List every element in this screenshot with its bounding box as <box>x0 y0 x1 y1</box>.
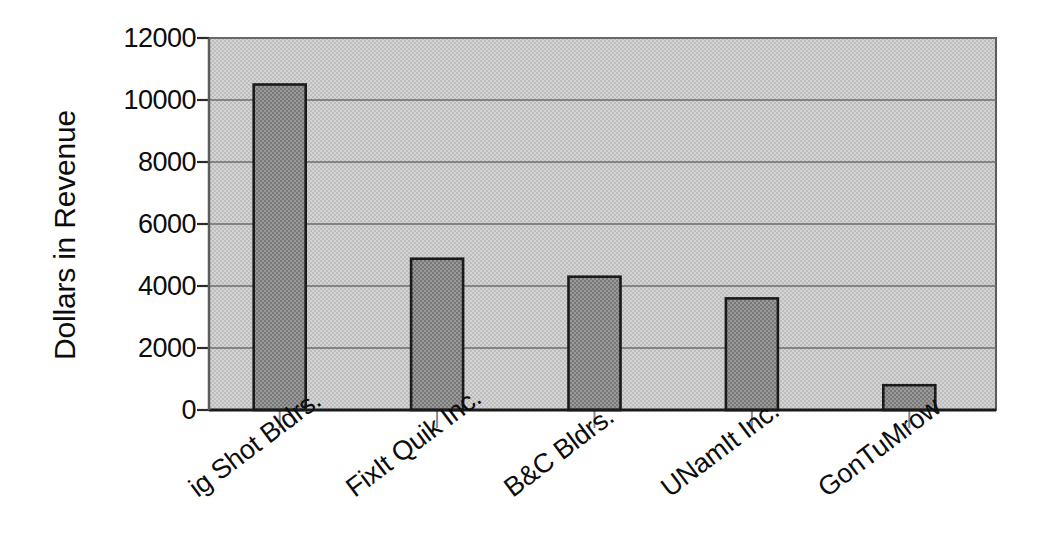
bar <box>254 85 306 411</box>
revenue-bar-chart: Dollars in Revenue 020004000600080001000… <box>0 0 1042 544</box>
y-axis-tick-label: 10000 <box>123 87 196 114</box>
y-axis-tick-label: 0 <box>181 397 196 424</box>
y-axis-tick-marks <box>197 38 209 410</box>
bar <box>569 277 621 410</box>
y-axis-tick-label: 12000 <box>123 25 196 52</box>
bar <box>411 259 463 410</box>
bar <box>726 298 778 410</box>
y-axis-tick-label: 8000 <box>138 149 196 176</box>
y-axis-tick-label: 6000 <box>138 211 196 238</box>
y-axis-tick-label: 4000 <box>138 273 196 300</box>
y-axis-tick-label: 2000 <box>138 335 196 362</box>
